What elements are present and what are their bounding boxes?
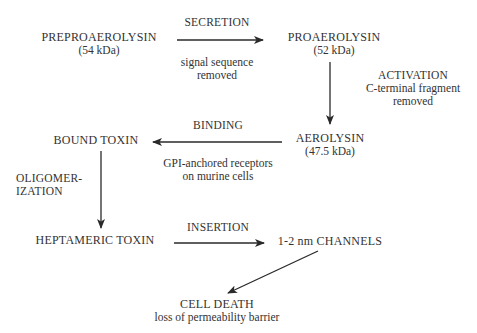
node-cell-death-detail: loss of permeability barrier <box>155 311 280 324</box>
node-bound-toxin: BOUND TOXIN <box>54 134 139 147</box>
label-oligomerization-line1: OLIGOMER- <box>16 172 82 185</box>
node-proaerolysin: PROAEROLYSIN <box>288 31 381 44</box>
label-insertion: INSERTION <box>187 221 249 234</box>
note-secretion-line2: removed <box>197 69 237 82</box>
node-aerolysin-mass: (47.5 kDa) <box>305 145 355 158</box>
label-activation: ACTIVATION <box>378 69 448 82</box>
node-proaerolysin-mass: (52 kDa) <box>313 44 354 57</box>
node-preproaerolysin-mass: (54 kDa) <box>78 44 119 57</box>
node-preproaerolysin: PREPROAEROLYSIN <box>41 31 156 44</box>
label-oligomerization-line2: IZATION <box>16 185 63 198</box>
note-activation-line1: C-terminal fragment <box>366 82 460 95</box>
node-heptameric-toxin: HEPTAMERIC TOXIN <box>36 234 155 247</box>
note-activation-line2: removed <box>393 95 433 108</box>
note-binding-line2: on murine cells <box>183 170 254 183</box>
label-binding: BINDING <box>193 119 243 132</box>
note-binding-line1: GPI-anchored receptors <box>163 157 273 170</box>
node-aerolysin: AEROLYSIN <box>296 132 365 145</box>
note-secretion-line1: signal sequence <box>181 56 254 69</box>
node-channels: 1-2 nm CHANNELS <box>278 235 382 248</box>
label-secretion: SECRETION <box>184 16 249 29</box>
aerolysin-pathway-diagram: PREPROAEROLYSIN (54 kDa) PROAEROLYSIN (5… <box>0 0 477 333</box>
cell-death-arrow <box>228 251 318 293</box>
node-cell-death: CELL DEATH <box>180 298 254 311</box>
